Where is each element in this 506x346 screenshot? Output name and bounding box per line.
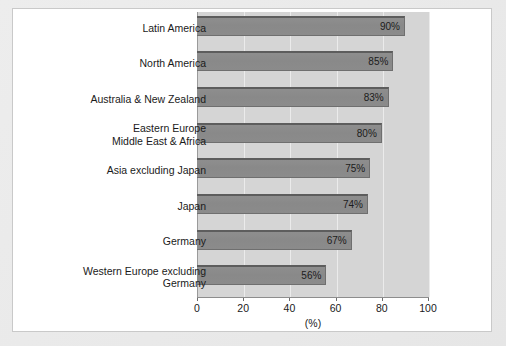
chart-card: 02040608010090%Latin America85%North Ame… xyxy=(12,8,492,332)
bar: 75% xyxy=(197,158,370,178)
bar: 83% xyxy=(197,87,389,107)
category-label: Germany xyxy=(6,235,206,248)
category-label: Eastern Europe Middle East & Africa xyxy=(6,122,206,147)
bar: 80% xyxy=(197,123,382,143)
page-root: 02040608010090%Latin America85%North Ame… xyxy=(0,0,506,346)
x-tick-label-0: 0 xyxy=(194,302,200,314)
x-axis-title: (%) xyxy=(197,317,429,329)
x-tick-label-20: 20 xyxy=(237,302,249,314)
bar: 74% xyxy=(197,194,368,214)
bar-value-label: 75% xyxy=(345,163,369,174)
category-label: Latin America xyxy=(6,22,206,35)
x-tick-label-80: 80 xyxy=(376,302,388,314)
bar-value-label: 85% xyxy=(368,56,392,67)
category-label: Asia excluding Japan xyxy=(6,164,206,177)
category-label: Japan xyxy=(6,200,206,213)
bar: 85% xyxy=(197,51,393,71)
bar-value-label: 80% xyxy=(357,128,381,139)
category-label: Western Europe excluding Germany xyxy=(6,265,206,290)
bar-value-label: 67% xyxy=(327,235,351,246)
bar: 67% xyxy=(197,230,352,250)
bar-value-label: 74% xyxy=(343,199,367,210)
x-tick-label-60: 60 xyxy=(330,302,342,314)
category-label: Australia & New Zealand xyxy=(6,93,206,106)
bar-chart-figure: 02040608010090%Latin America85%North Ame… xyxy=(13,9,493,333)
x-tick-label-100: 100 xyxy=(419,302,437,314)
gridline-100 xyxy=(429,12,430,297)
category-label: North America xyxy=(6,57,206,70)
bar: 56% xyxy=(197,265,326,285)
bar-value-label: 90% xyxy=(380,21,404,32)
x-axis-line xyxy=(197,297,429,298)
bar-value-label: 56% xyxy=(301,270,325,281)
bar-value-label: 83% xyxy=(364,92,388,103)
x-tick-label-40: 40 xyxy=(284,302,296,314)
bar: 90% xyxy=(197,16,405,36)
